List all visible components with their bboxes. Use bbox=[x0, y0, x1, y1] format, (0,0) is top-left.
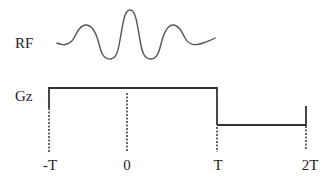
gz-rephasing-lobe bbox=[217, 106, 306, 125]
tick-label-minus-t: -T bbox=[43, 157, 57, 173]
rf-sinc-waveform bbox=[57, 10, 215, 59]
gz-slice-select-lobe bbox=[49, 88, 217, 125]
gz-label: Gz bbox=[15, 88, 33, 104]
rf-label: RF bbox=[15, 35, 33, 51]
tick-label-zero: 0 bbox=[123, 157, 131, 173]
pulse-sequence-diagram: RF Gz -T 0 T 2T bbox=[0, 0, 328, 179]
tick-label-t: T bbox=[213, 157, 222, 173]
tick-label-2t: 2T bbox=[302, 157, 319, 173]
